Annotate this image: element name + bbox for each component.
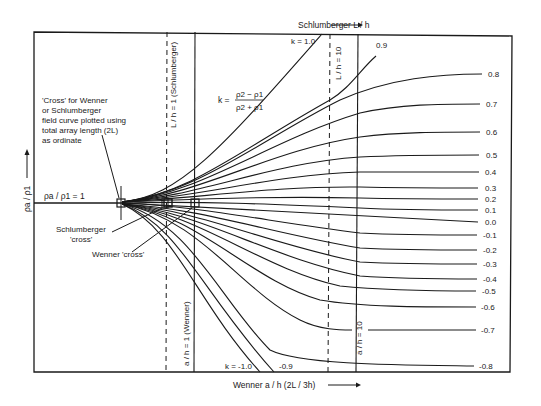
- curve-label: 0.2: [485, 195, 497, 204]
- cross-note-pointer: [102, 135, 119, 198]
- wenner-a10-line: [356, 34, 358, 372]
- wenner-a1-label: a / h = 1 (Wenner): [182, 301, 191, 366]
- cross-note-line-3: field curve plotted using: [42, 116, 126, 125]
- curve-label: 0.5: [486, 151, 498, 160]
- formula-denominator: ρ2 + ρ1: [236, 103, 264, 112]
- plot-frame: [34, 32, 512, 372]
- curve-label: -0.3: [483, 260, 497, 269]
- schlumberger-cross-label-2: 'cross': [70, 235, 93, 244]
- schlumberger-L10-label: L / h = 10: [334, 46, 343, 80]
- cross-note-line-5: as ordinate: [42, 136, 82, 145]
- schlumberger-L10-line: [328, 34, 330, 372]
- k-label-1.0: k = 1.0: [291, 37, 316, 46]
- schlumberger-cross-label-1: Schlumberger: [56, 225, 106, 234]
- curve-label: 0.1: [485, 206, 497, 215]
- cross-note-line-4: total array length (2L): [42, 126, 118, 135]
- master-curve-diagram: Schlumberger L / h Wenner a / h (2L / 3h…: [0, 0, 541, 406]
- k-label-0.9: 0.9: [376, 41, 388, 50]
- curve-label: 0.0: [485, 218, 497, 227]
- curve-label: 0.6: [486, 128, 498, 137]
- bottom-axis-label: Wenner a / h (2L / 3h): [233, 380, 315, 390]
- formula-lhs: k =: [218, 95, 230, 105]
- curve-label: -0.4: [483, 275, 497, 284]
- baseline-label: ρa / ρ1 = 1: [44, 191, 85, 201]
- curve-label: -0.8: [479, 362, 493, 371]
- schlumberger-L1-label: L / h = 1 (Schlumberger): [169, 41, 178, 128]
- k-label-minus-1.0: k = -1.0: [225, 362, 252, 371]
- curve-label: -0.5: [482, 287, 496, 296]
- cross-note-line-1: 'Cross' for Wenner: [42, 96, 108, 105]
- wenner-cross-label: Wenner 'cross': [92, 250, 145, 259]
- k-label-minus-0.9: -0.9: [279, 362, 293, 371]
- cross-note-line-2: or Schlumberger: [42, 106, 101, 115]
- curve-label: -0.6: [481, 303, 495, 312]
- bottom-axis-arrowhead-icon: [356, 383, 361, 388]
- curve-label: 0.7: [486, 100, 498, 109]
- curve-label: 0.8: [488, 70, 500, 79]
- curve-labels: 0.8 0.7 0.6 0.5 0.4 0.3 0.2 0.1 0.0 -0.1…: [479, 70, 500, 371]
- y-axis-label: ρa / ρ1: [22, 186, 32, 212]
- curve-label: 0.4: [485, 168, 497, 177]
- curve-label: -0.7: [481, 326, 495, 335]
- formula-numerator: ρ2 − ρ1: [236, 90, 264, 99]
- curve-label: 0.3: [485, 184, 497, 193]
- curve-label: -0.2: [483, 246, 497, 255]
- k-formula: k = ρ2 − ρ1 ρ2 + ρ1: [218, 90, 264, 112]
- curve-label: -0.1: [483, 231, 497, 240]
- wenner-a10-label: a / h = 10: [355, 321, 364, 355]
- y-axis-arrowhead-icon: [25, 149, 30, 155]
